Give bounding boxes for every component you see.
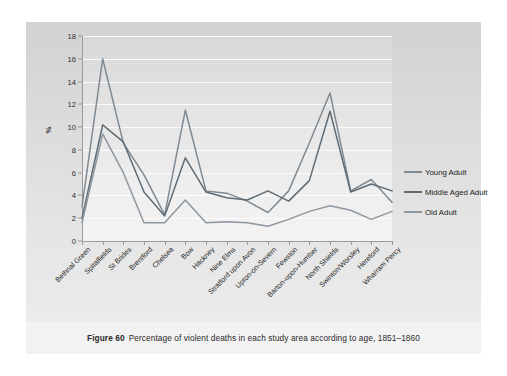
x-tick-mark (392, 241, 393, 245)
x-tick-label: Bow (179, 245, 195, 261)
x-axis-line (82, 241, 392, 242)
figure-page: 024681012141618 % Bethnal GreenSpitalfie… (0, 0, 507, 376)
legend-label: Young Adult (425, 168, 466, 177)
figure-caption: Figure 60 Percentage of violent deaths i… (26, 322, 481, 354)
series-line (82, 59, 392, 215)
legend-item[interactable]: Young Adult (404, 162, 487, 182)
legend-swatch-icon (404, 171, 422, 173)
legend-swatch-icon (404, 211, 422, 213)
y-axis-label: % (44, 127, 53, 134)
caption-label: Figure 60 (87, 333, 125, 343)
chart-legend: Young AdultMiddle Aged AdultOld Adult (404, 162, 487, 222)
series-line (82, 134, 392, 226)
plot-wrapper: 024681012141618 % Bethnal GreenSpitalfie… (26, 22, 481, 336)
legend-item[interactable]: Old Adult (404, 202, 487, 222)
series-lines (82, 36, 392, 241)
legend-item[interactable]: Middle Aged Adult (404, 182, 487, 202)
legend-swatch-icon (404, 191, 422, 193)
caption-text: Percentage of violent deaths in each stu… (129, 333, 420, 343)
legend-label: Old Adult (425, 208, 457, 217)
x-tick-label: Chelsea (150, 245, 175, 270)
legend-label: Middle Aged Adult (425, 188, 487, 197)
